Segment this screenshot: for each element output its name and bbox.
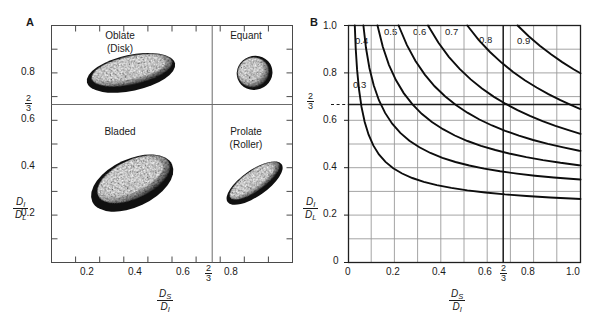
pebble-equant bbox=[232, 51, 277, 95]
panel-b-ytick-two-thirds: 23 bbox=[307, 92, 314, 111]
panel-b-ytick-1.0: 1.0 bbox=[323, 20, 337, 31]
panel-a-xtick-0.2: 0.2 bbox=[80, 266, 94, 277]
contour-label-0.7: 0.7 bbox=[444, 27, 459, 37]
class-label-prolate: Prolate (Roller) bbox=[211, 126, 281, 151]
panel-a-xtick-two-thirds: 23 bbox=[205, 264, 212, 283]
panel-b-xlabel-den: D bbox=[452, 301, 459, 312]
class-label-bladed: Bladed bbox=[80, 126, 160, 139]
panel-a-ytick-two-thirds: 23 bbox=[25, 94, 32, 113]
panel-a-ytick-0.4: 0.4 bbox=[21, 160, 35, 171]
panel-b-xtick-0.4: 0.4 bbox=[432, 266, 446, 277]
panel-a-ytick-0.8: 0.8 bbox=[21, 66, 35, 77]
panel-a-xlabel-den-sub: I bbox=[168, 305, 170, 314]
panel-b-xtick-frac-num: 2 bbox=[500, 264, 507, 273]
panel-b-ytick-frac-den: 3 bbox=[307, 101, 314, 111]
panel-a-xtick-0.8: 0.8 bbox=[224, 266, 238, 277]
panel-b-xtick-1.0: 1.0 bbox=[566, 266, 580, 277]
contour-curve-0.3 bbox=[355, 26, 581, 200]
contour-curve-0.7 bbox=[428, 26, 581, 134]
panel-b-xlabel-den-sub: I bbox=[460, 305, 462, 314]
panel-b-contours bbox=[355, 26, 581, 200]
class-label-bladed-name: Bladed bbox=[104, 126, 135, 137]
panel-b-xtick-0.6: 0.6 bbox=[478, 266, 492, 277]
panel-b-ytick-0: 0 bbox=[333, 255, 339, 266]
contour-label-0.6: 0.6 bbox=[412, 27, 427, 37]
class-label-oblate-sub: (Disk) bbox=[107, 43, 133, 54]
panel-b-ylabel-den-sub: L bbox=[312, 213, 316, 222]
class-label-prolate-sub: (Roller) bbox=[230, 139, 263, 150]
contour-curve-0.4 bbox=[363, 26, 580, 180]
panel-b-xlabel-num-sub: S bbox=[458, 292, 463, 301]
contour-curve-0.5 bbox=[378, 26, 581, 166]
class-label-equant: Equant bbox=[211, 30, 281, 43]
panel-b-letter: B bbox=[310, 16, 318, 28]
figure-container: A 0.8 23 0.6 0.4 0.2 0.2 0.4 0.6 23 0.8 … bbox=[0, 0, 602, 322]
panel-a-xtick-frac-num: 2 bbox=[205, 264, 212, 273]
contour-label-0.9: 0.9 bbox=[516, 36, 531, 46]
panel-b-xtick-0: 0 bbox=[345, 266, 351, 277]
panel-a-xtick-0.6: 0.6 bbox=[176, 266, 190, 277]
class-label-oblate-name: Oblate bbox=[105, 30, 134, 41]
panel-a-letter: A bbox=[26, 16, 34, 28]
panel-b-ylabel: DI DL bbox=[303, 196, 318, 220]
panel-a-xlabel-den: D bbox=[160, 301, 167, 312]
pebble-prolate bbox=[220, 154, 289, 213]
class-label-prolate-name: Prolate bbox=[230, 126, 262, 137]
panel-a-xtick-0.4: 0.4 bbox=[128, 266, 142, 277]
pebble-bladed bbox=[82, 143, 182, 224]
panel-b-ytick-0.4: 0.4 bbox=[323, 161, 337, 172]
panel-b-ytick-frac-num: 2 bbox=[307, 92, 314, 101]
panel-a-ylabel: DI DL bbox=[13, 196, 28, 220]
panel-b-gridlines bbox=[349, 26, 581, 263]
panel-b-xtick-0.2: 0.2 bbox=[386, 266, 400, 277]
panel-a-xlabel: DS DI bbox=[157, 288, 173, 312]
contour-curve-0.9 bbox=[518, 26, 581, 74]
panel-b-xtick-two-thirds: 23 bbox=[500, 264, 507, 283]
panel-a-ylabel-den-sub: L bbox=[22, 213, 26, 222]
panel-a-xtick-frac-den: 3 bbox=[205, 273, 212, 283]
panel-a-ytick-frac-num: 2 bbox=[25, 94, 32, 103]
panel-b-ytick-0.6: 0.6 bbox=[323, 114, 337, 125]
panel-b-xtick-0.8: 0.8 bbox=[521, 266, 535, 277]
contour-label-0.4: 0.4 bbox=[354, 36, 369, 46]
contour-label-0.3: 0.3 bbox=[352, 80, 367, 90]
contour-label-0.5: 0.5 bbox=[383, 27, 398, 37]
panel-a-xlabel-num-sub: S bbox=[166, 292, 171, 301]
panel-b-xtick-frac-den: 3 bbox=[500, 273, 507, 283]
panel-b-ytick-0.2: 0.2 bbox=[323, 208, 337, 219]
panel-b-ytick-0.8: 0.8 bbox=[323, 67, 337, 78]
class-label-equant-name: Equant bbox=[230, 30, 262, 41]
panel-a-ytick-0.6: 0.6 bbox=[21, 113, 35, 124]
class-label-oblate: Oblate (Disk) bbox=[80, 30, 160, 55]
contour-label-0.8: 0.8 bbox=[478, 35, 493, 45]
panel-b-xlabel: DS DI bbox=[449, 288, 465, 312]
panel-a-ytick-frac-den: 3 bbox=[25, 103, 32, 113]
